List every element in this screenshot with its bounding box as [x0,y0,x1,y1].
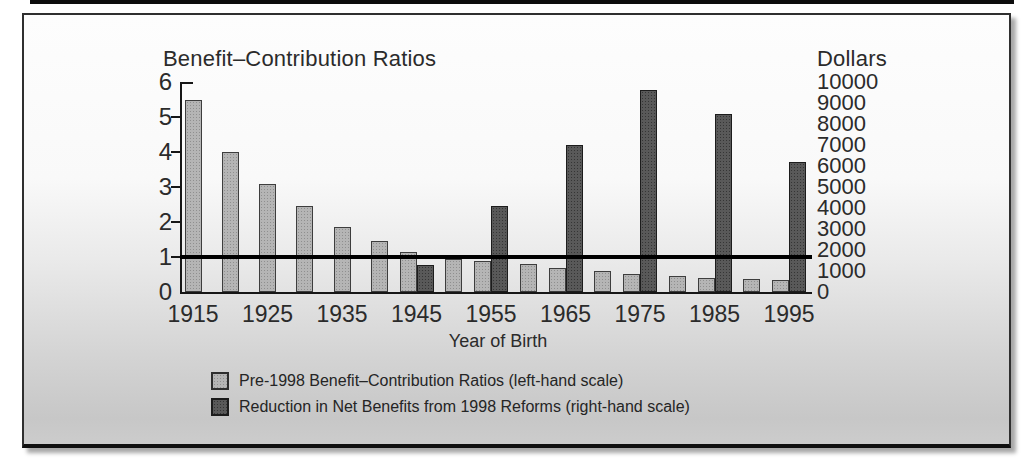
bar-light-1950 [445,259,462,292]
right-axis-tick-label: 5000 [817,176,866,198]
left-axis-line [180,82,182,294]
legend-item-reduction: Reduction in Net Benefits from 1998 Refo… [211,397,690,416]
left-axis-tick-mark [171,256,180,258]
bar-light-1975 [623,274,640,292]
left-axis-tick-label: 3 [132,174,172,200]
figure-page: Benefit–Contribution Ratios Dollars 0123… [0,0,1023,458]
bar-light-1915 [185,100,202,293]
bar-light-1980 [669,276,686,292]
right-axis-tick-label: 3000 [817,218,866,240]
left-axis-tick-mark [171,186,180,188]
left-axis-title: Benefit–Contribution Ratios [163,46,436,72]
bar-light-1960 [520,264,537,292]
legend-swatch-pre1998 [211,372,229,390]
left-axis-tick-mark [171,116,180,118]
bar-dark-1985 [715,114,732,293]
right-axis-tick-label: 10000 [817,71,878,93]
right-axis-tick-label: 8000 [817,113,866,135]
right-axis-tick-label: 7000 [817,134,866,156]
left-axis-tick-mark [171,151,180,153]
breakeven-line [180,255,812,259]
bar-light-1925 [259,184,276,293]
bar-light-1920 [222,152,239,292]
legend-label-pre1998: Pre-1998 Benefit–Contribution Ratios (le… [239,372,623,390]
bar-light-1970 [594,271,611,292]
left-axis-tick-label: 4 [132,139,172,165]
left-axis-tick-mark [171,221,180,223]
bar-dark-1945 [417,265,434,292]
left-axis-top-tick [182,82,193,84]
bar-light-1985 [698,278,715,292]
bar-light-1935 [334,227,351,292]
left-axis-tick-label: 6 [132,69,172,95]
bar-light-1995 [772,280,789,292]
x-axis-title: Year of Birth [438,331,558,352]
figure-frame: Benefit–Contribution Ratios Dollars 0123… [22,13,1011,448]
left-axis-tick-label: 5 [132,104,172,130]
bar-light-1965 [549,268,566,293]
legend: Pre-1998 Benefit–Contribution Ratios (le… [211,371,690,423]
right-axis-tick-label: 1000 [817,260,866,282]
right-axis-tick-label: 2000 [817,239,866,261]
left-axis-tick-label: 2 [132,209,172,235]
bar-light-1955 [474,261,491,292]
page-top-rule [30,0,1014,4]
right-axis-tick-label: 9000 [817,92,866,114]
bar-dark-1965 [566,145,583,292]
left-axis-tick-label: 1 [132,244,172,270]
bar-dark-1975 [640,90,657,292]
legend-item-pre1998: Pre-1998 Benefit–Contribution Ratios (le… [211,371,690,390]
right-axis-tick-label: 0 [817,281,829,303]
bar-dark-1995 [789,162,806,292]
right-axis-tick-label: 6000 [817,155,866,177]
x-axis-line [180,292,812,294]
bar-dark-1955 [491,206,508,292]
bar-light-1930 [296,206,313,292]
legend-label-reduction: Reduction in Net Benefits from 1998 Refo… [239,398,690,416]
legend-swatch-reduction [211,398,229,416]
right-axis-tick-label: 4000 [817,197,866,219]
bar-light-1990 [743,279,760,292]
bar-light-1940 [371,241,388,292]
x-axis-tick-label: 1995 [744,301,834,328]
